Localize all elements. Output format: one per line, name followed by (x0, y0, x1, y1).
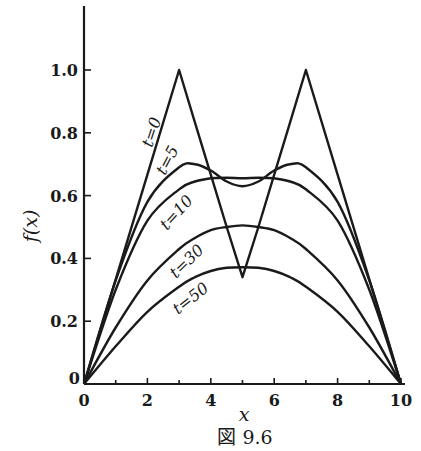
curve-label-t50: t=50 (169, 278, 212, 318)
y-tick-label: 0.8 (50, 124, 78, 143)
x-tick-label: 8 (332, 391, 343, 410)
y-tick-label: 0.2 (50, 312, 78, 331)
figure-caption: 図 9.6 (217, 426, 272, 448)
x-axis-label: x (239, 403, 250, 425)
x-tick-label: 0 (78, 391, 89, 410)
y-tick-label: 0.6 (50, 187, 78, 206)
x-tick-label: 4 (205, 391, 216, 410)
curve-label-t30: t=30 (166, 240, 208, 282)
line-chart: 024681000.20.40.60.81.0 t=0 t=5 t=10 t=3… (0, 0, 421, 451)
x-tick-label: 10 (390, 391, 412, 410)
x-tick-label: 6 (269, 391, 280, 410)
curve-t0 (84, 70, 401, 384)
curve-label-t10: t=10 (156, 191, 197, 234)
y-tick-label: 0 (69, 369, 80, 388)
curve-t50 (84, 267, 401, 384)
y-axis-label: f(x) (19, 210, 41, 245)
y-tick-label: 1.0 (50, 61, 78, 80)
curves (84, 70, 401, 384)
x-tick-label: 2 (142, 391, 153, 410)
curve-t10 (84, 178, 401, 384)
curve-label-t0: t=0 (138, 115, 165, 149)
y-tick-label: 0.4 (50, 249, 78, 268)
